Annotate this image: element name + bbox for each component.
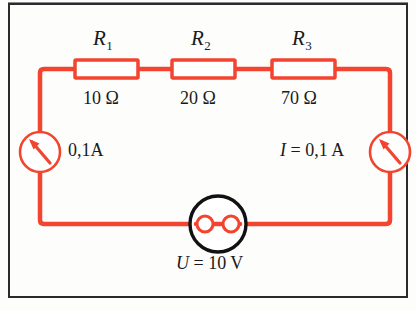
wire-left-bottom <box>40 168 196 224</box>
socket-terminal-left <box>197 216 213 232</box>
resistor-value-r1: 10 Ω <box>83 89 119 107</box>
circuit-diagram-page: R1 10 Ω R2 20 Ω R3 70 Ω 0,1A I = 0,1 A U… <box>0 0 416 311</box>
resistor-label-r2: R2 <box>191 28 211 52</box>
ammeter-left-reading: 0,1A <box>68 141 104 159</box>
ammeter-left-symbol <box>20 132 60 172</box>
resistor-value-r2: 20 Ω <box>180 89 216 107</box>
socket-terminal-right <box>223 216 239 232</box>
resistor-label-r1: R1 <box>93 28 113 52</box>
wire-right-bottom <box>240 168 390 224</box>
resistor-body-r1 <box>75 60 138 78</box>
wire-top-left <box>40 69 75 136</box>
resistor-label-r3: R3 <box>292 28 312 52</box>
voltage-source-label: U = 10 V <box>176 254 243 272</box>
ammeter-right-reading: I = 0,1 A <box>280 141 344 159</box>
resistor-body-r3 <box>272 60 335 78</box>
ammeter-right-symbol <box>370 132 410 172</box>
voltage-source-symbol <box>190 196 246 252</box>
resistor-symbols <box>75 60 335 78</box>
resistor-value-r3: 70 Ω <box>281 89 317 107</box>
wire-top-right <box>335 69 390 136</box>
resistor-body-r2 <box>172 60 235 78</box>
